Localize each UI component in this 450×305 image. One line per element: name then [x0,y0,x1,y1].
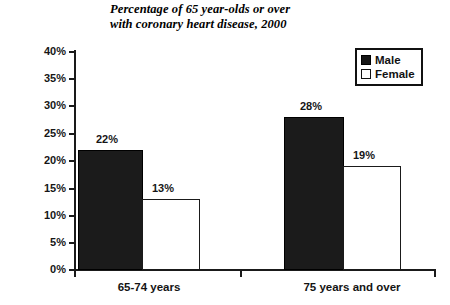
y-axis-tick-20 [69,160,75,162]
y-axis-label-0: 0% [26,264,66,275]
y-axis-tick-30 [69,105,75,107]
legend-item-male: Male [361,53,415,67]
x-axis-tick-end [434,271,436,277]
legend-label-female: Female [375,68,415,80]
value-label-male-75-over: 28% [300,100,322,112]
bar-male-75-over [284,117,344,270]
y-axis-tick-15 [69,188,75,190]
value-label-female-65-74: 13% [152,182,174,194]
value-label-female-75-over: 19% [353,149,375,161]
y-axis-label-5: 5% [26,237,66,248]
x-axis-category-label-65-74: 65-74 years [89,281,209,293]
bar-female-75-over [343,166,401,270]
y-axis-label-10: 10% [26,210,66,221]
y-axis-label-15: 15% [26,183,66,194]
bar-chart: Percentage of 65 year-olds or over with … [0,0,450,305]
filled-square-swatch-icon [361,55,371,65]
y-axis-label-25: 25% [26,128,66,139]
y-axis-label-30: 30% [26,100,66,111]
x-axis-tick-start [74,271,76,277]
x-axis-category-label-75-over: 75 years and over [272,281,432,293]
y-axis-label-40: 40% [26,46,66,57]
chart-title-line-1: Percentage of 65 year-olds or over [110,2,370,17]
legend-item-female: Female [361,67,415,81]
x-axis-tick-mid [240,271,242,277]
outline-square-swatch-icon [361,69,371,79]
y-axis-tick-10 [69,215,75,217]
y-axis-tick-35 [69,78,75,80]
y-axis-tick-40 [69,51,75,53]
value-label-male-65-74: 22% [96,133,118,145]
y-axis-label-20: 20% [26,155,66,166]
legend-label-male: Male [375,54,401,66]
y-axis-tick-25 [69,133,75,135]
chart-title-line-2: with coronary heart disease, 2000 [110,17,370,32]
bar-female-65-74 [142,199,200,270]
bar-male-65-74 [78,150,143,270]
chart-legend: Male Female [355,48,423,86]
y-axis-label-35: 35% [26,73,66,84]
chart-title: Percentage of 65 year-olds or over with … [110,2,370,32]
y-axis-tick-5 [69,242,75,244]
